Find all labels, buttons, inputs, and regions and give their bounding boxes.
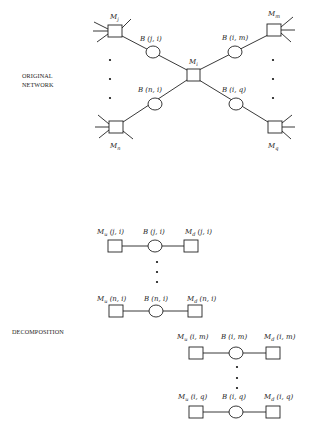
machine-md-ni — [188, 305, 202, 317]
label-bni: B (n, i) — [137, 86, 162, 94]
machine-mq — [268, 121, 282, 133]
buffer-ni — [149, 305, 163, 317]
decomposition-caption: DECOMPOSITION — [12, 328, 64, 335]
machine-md-ji — [184, 240, 198, 252]
decomp-line-iq: Mu (i, q) B (i, q) Md (i, q) — [177, 393, 294, 418]
label-mu-ni: Mu (n, i) — [96, 295, 127, 304]
label-md-ji: Md (j, i) — [184, 228, 212, 237]
decomp-line-ni: Mu (n, i) B (n, i) Md (n, i) — [96, 295, 217, 317]
label-mu-ji: Mu (j, i) — [96, 228, 124, 237]
label-md-im: Md (i, m) — [263, 333, 296, 342]
buffer-bim — [228, 46, 242, 58]
buffer-biq — [229, 98, 243, 110]
buffer-ji — [148, 240, 162, 252]
buffer-iq — [229, 406, 243, 418]
label-mu-iq: Mu (i, q) — [177, 393, 208, 402]
machine-mu-ji — [108, 240, 122, 252]
decomp-line-im: Mu (i, m) B (i, m) Md (i, m) — [176, 333, 296, 359]
buffer-bni — [148, 98, 162, 110]
right-ellipsis — [272, 59, 274, 99]
original-caption-line2: NETWORK — [22, 81, 54, 88]
label-biq: B (i, q) — [221, 86, 246, 94]
label-b-ni: B (n, i) — [143, 295, 168, 303]
label-mj: Mj — [109, 13, 119, 23]
buffer-im — [229, 347, 243, 359]
mq-stubs — [282, 115, 295, 139]
machine-mu-iq — [189, 406, 203, 418]
machine-mu-im — [189, 347, 203, 359]
decomp-line-ji: Mu (j, i) B (j, i) Md (j, i) — [96, 228, 212, 252]
mm-stubs — [281, 17, 295, 42]
ellipsis-lower — [236, 366, 238, 389]
decomposition: DECOMPOSITION Mu (j, i) B (j, i) Md (j, … — [12, 228, 296, 418]
machine-mm — [267, 24, 281, 36]
machine-md-im — [266, 347, 280, 359]
label-mi: Mi — [188, 58, 198, 67]
ellipsis-upper — [156, 261, 158, 283]
machine-mn — [109, 121, 123, 133]
label-mq: Mq — [267, 142, 278, 152]
label-bim: B (i, m) — [221, 34, 248, 42]
machine-md-iq — [266, 406, 280, 418]
label-b-im: B (i, m) — [220, 333, 247, 341]
label-md-ni: Md (n, i) — [186, 295, 217, 304]
label-mm: Mm — [267, 10, 280, 19]
label-mu-im: Mu (i, m) — [176, 333, 209, 342]
buffer-bji — [146, 46, 160, 58]
label-md-iq: Md (i, q) — [263, 393, 294, 402]
label-b-ji: B (j, i) — [142, 228, 165, 236]
label-b-iq: B (i, q) — [221, 393, 246, 401]
machine-mj — [108, 25, 122, 37]
label-mn: Mn — [109, 142, 120, 151]
machine-mi — [187, 69, 200, 81]
original-network: ORIGINAL NETWORK — [22, 10, 295, 152]
original-caption-line1: ORIGINAL — [22, 72, 53, 79]
left-ellipsis — [109, 59, 111, 99]
label-bji: B (j, i) — [139, 35, 162, 43]
machine-mu-ni — [109, 305, 123, 317]
network-decomposition-diagram: ORIGINAL NETWORK — [0, 0, 314, 445]
